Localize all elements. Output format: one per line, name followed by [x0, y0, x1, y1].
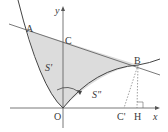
point-a-label: A: [26, 23, 34, 34]
region-s-prime-label: S': [45, 62, 53, 73]
x-axis-arrow-icon: [155, 106, 160, 110]
dashed-bh: [137, 65, 138, 108]
point-b-label: B: [134, 55, 141, 66]
region-s-prime: [27, 30, 138, 108]
point-h-label: H: [134, 111, 141, 122]
y-axis-arrow-icon: [61, 6, 65, 11]
region-s-double-prime-label: S": [92, 89, 102, 100]
dashed-bc-prime: [124, 65, 138, 108]
origin-label: O: [54, 111, 61, 122]
y-axis-label: y: [54, 5, 60, 16]
right-angle-mark: [137, 102, 143, 108]
point-c-prime-label: C': [117, 111, 126, 122]
diagram: y x O A B C C' H S' S": [0, 0, 168, 132]
point-c-label: C: [65, 35, 72, 46]
x-axis-label: x: [152, 111, 158, 122]
